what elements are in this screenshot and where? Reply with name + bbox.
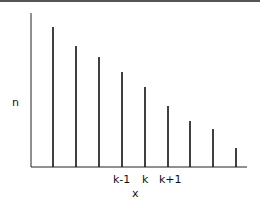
- tick-label-k-minus-1: k-1: [113, 173, 130, 186]
- x-axis-label: x: [132, 187, 139, 200]
- tick-label-k-plus-1: k+1: [159, 173, 182, 186]
- stem-chart: n x k-1 k k+1: [0, 0, 260, 208]
- y-axis-label: n: [12, 96, 19, 109]
- stem-bars: [53, 27, 236, 167]
- tick-label-k: k: [142, 173, 149, 186]
